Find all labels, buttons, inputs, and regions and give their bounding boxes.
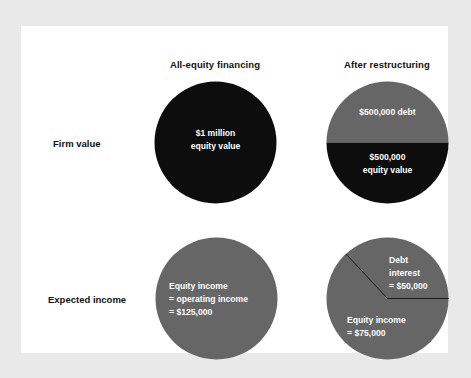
pie-chart-expected-income-all-equity xyxy=(155,237,278,360)
figure-panel: All-equity financing After restructuring… xyxy=(21,26,448,353)
pie-slice-equity-income xyxy=(156,238,278,360)
pie-chart-firm-value-all-equity xyxy=(154,81,277,204)
column-header-after-restructuring: After restructuring xyxy=(317,59,457,70)
pie-slice-debt xyxy=(327,82,449,143)
row-label-firm-value: Firm value xyxy=(53,138,101,149)
pie-chart-firm-value-after-restructuring xyxy=(326,81,449,204)
column-header-all-equity-financing: All-equity financing xyxy=(145,59,285,70)
figure-container: All-equity financing After restructuring… xyxy=(0,0,471,378)
row-label-expected-income: Expected income xyxy=(48,294,126,305)
pie-chart-expected-income-after-restructuring xyxy=(326,237,449,360)
pie-slice-equity-value xyxy=(155,82,277,204)
pie-slice-equity-value xyxy=(327,143,449,204)
